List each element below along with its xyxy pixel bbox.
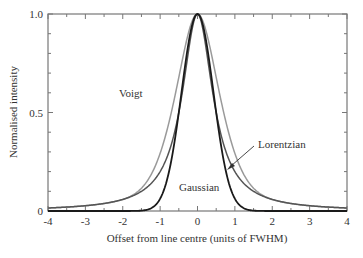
- series-lorentzian: [48, 14, 347, 208]
- x-tick-label: -1: [156, 215, 165, 227]
- y-tick-label: 0.5: [29, 107, 43, 119]
- x-tick-label: -3: [81, 215, 91, 227]
- x-axis-label: Offset from line centre (units of FWHM): [107, 232, 288, 245]
- y-tick-label: 0: [38, 205, 44, 217]
- y-axis-label: Normalised intensity: [7, 66, 19, 158]
- series-voigt: [48, 14, 347, 208]
- x-tick-label: 3: [307, 215, 313, 227]
- x-tick-labels: -4-3-2-101234: [43, 215, 350, 227]
- annotation-lorentzian: Lorentzian: [258, 138, 306, 150]
- x-tick-label: -4: [43, 215, 53, 227]
- x-tick-label: 0: [195, 215, 201, 227]
- x-tick-label: 1: [232, 215, 238, 227]
- x-tick-label: 2: [270, 215, 276, 227]
- y-tick-label: 1.0: [29, 8, 43, 20]
- x-tick-label: -2: [118, 215, 127, 227]
- annotation-voigt: Voigt: [119, 87, 143, 99]
- x-tick-label: 4: [344, 215, 350, 227]
- y-tick-labels: 00.51.0: [29, 8, 43, 217]
- annotation-gaussian: Gaussian: [179, 181, 220, 193]
- line-chart: -4-3-2-101234 00.51.0 Offset from line c…: [0, 0, 363, 258]
